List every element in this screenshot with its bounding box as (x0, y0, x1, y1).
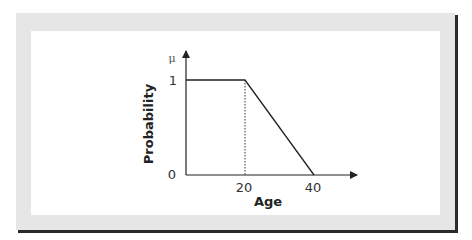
y-tick-1: 1 (169, 73, 177, 88)
y-axis-title: Probability (141, 83, 156, 164)
x-axis-title: Age (254, 194, 282, 209)
x-tick-20: 20 (236, 180, 253, 195)
y-symbol-mu: μ (168, 52, 175, 65)
x-tick-40: 40 (305, 180, 322, 195)
y-tick-0: 0 (168, 167, 176, 182)
chart: μ 1 0 20 40 Age Probability (0, 0, 472, 240)
membership-line (186, 80, 314, 175)
